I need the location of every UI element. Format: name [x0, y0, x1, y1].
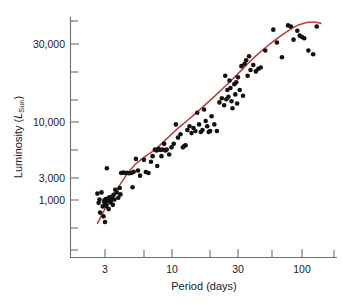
- data-point: [203, 119, 208, 124]
- data-point: [311, 52, 316, 57]
- data-point: [280, 55, 285, 60]
- data-point: [237, 88, 242, 93]
- data-point: [302, 36, 307, 41]
- data-point: [150, 154, 155, 159]
- data-point: [208, 129, 213, 134]
- data-point: [205, 124, 210, 129]
- data-point: [236, 75, 241, 80]
- axis-frame: [71, 17, 338, 258]
- data-point: [162, 142, 167, 147]
- data-point: [95, 191, 100, 196]
- y-axis-minor-ticks: [71, 21, 79, 250]
- data-points-layer: [95, 23, 319, 224]
- data-point: [228, 86, 233, 91]
- y-axis-title-subscript: Sun: [17, 100, 26, 113]
- data-point: [111, 203, 116, 208]
- x-axis-title: Period (days): [171, 280, 236, 292]
- y-axis-tick-labels: 30,000 10,000 3,000 1,000: [33, 38, 65, 206]
- data-point: [134, 157, 139, 162]
- x-tick-label-10: 10: [166, 263, 178, 275]
- y-axis-major-ticks: [71, 44, 80, 200]
- data-point: [247, 54, 252, 59]
- y-tick-label-1000: 1,000: [39, 194, 65, 206]
- x-tick-label-100: 100: [293, 263, 311, 275]
- x-axis-tick-labels: 3 10 30 100: [102, 263, 311, 275]
- data-point: [146, 171, 151, 176]
- data-point: [306, 48, 311, 53]
- data-point: [103, 220, 108, 225]
- data-point: [258, 65, 263, 70]
- data-point: [234, 80, 239, 85]
- data-point: [212, 122, 217, 127]
- data-point: [193, 129, 198, 134]
- data-point: [164, 147, 169, 152]
- data-point: [248, 68, 253, 73]
- data-point: [241, 93, 246, 98]
- data-point: [136, 168, 141, 173]
- data-point: [291, 37, 296, 42]
- data-point: [271, 27, 276, 32]
- data-point: [130, 185, 135, 190]
- y-tick-label-10000: 10,000: [33, 116, 65, 128]
- data-point: [263, 48, 268, 53]
- data-point: [217, 100, 222, 105]
- y-axis-title: Luminosity (LSun): [12, 96, 26, 178]
- data-point: [227, 78, 232, 83]
- data-point: [99, 190, 104, 195]
- data-point: [244, 58, 249, 63]
- data-point: [223, 73, 228, 78]
- data-point: [159, 154, 164, 159]
- data-point: [189, 131, 194, 136]
- data-point: [251, 63, 256, 68]
- data-point: [131, 169, 136, 174]
- data-point: [229, 99, 234, 104]
- x-tick-label-3: 3: [102, 263, 108, 275]
- data-point: [187, 124, 192, 129]
- fit-curve: [97, 22, 321, 223]
- data-point: [289, 24, 294, 29]
- data-point: [226, 94, 231, 99]
- data-point: [275, 40, 280, 45]
- data-point: [178, 132, 183, 137]
- data-point: [209, 114, 214, 119]
- data-point: [138, 173, 143, 178]
- data-point: [195, 110, 200, 115]
- y-tick-label-30000: 30,000: [33, 38, 65, 50]
- y-axis-title-close: ): [12, 96, 24, 100]
- data-point: [220, 96, 225, 101]
- data-point: [117, 186, 122, 191]
- data-point: [314, 24, 319, 29]
- fit-curve-layer: [97, 22, 321, 223]
- data-point: [97, 197, 102, 202]
- chart-canvas: 30,000 10,000 3,000 1,000 3 10 30 100 Pe: [0, 0, 343, 305]
- data-point: [233, 92, 238, 97]
- data-point: [215, 129, 220, 134]
- data-point: [230, 106, 235, 111]
- data-point: [235, 101, 240, 106]
- data-point: [106, 207, 111, 212]
- data-point: [174, 122, 179, 127]
- data-point: [197, 122, 202, 127]
- data-point: [98, 210, 103, 215]
- data-point: [105, 166, 110, 171]
- x-tick-label-30: 30: [232, 263, 244, 275]
- data-point: [149, 160, 154, 165]
- data-point: [183, 143, 188, 148]
- data-point: [155, 164, 160, 169]
- data-point: [118, 192, 123, 197]
- data-point: [101, 214, 106, 219]
- data-point: [222, 103, 227, 108]
- data-point: [200, 128, 205, 133]
- y-tick-label-3000: 3,000: [39, 172, 65, 184]
- data-point: [142, 158, 147, 163]
- data-point: [295, 29, 300, 34]
- data-point: [171, 142, 176, 147]
- svg-text:Luminosity (LSun): Luminosity (LSun): [12, 96, 26, 178]
- y-axis-title-main: Luminosity (: [12, 118, 24, 178]
- data-point: [202, 107, 207, 112]
- caption-strip: [0, 296, 343, 305]
- data-point: [167, 152, 172, 157]
- period-luminosity-figure: 30,000 10,000 3,000 1,000 3 10 30 100 Pe: [0, 0, 343, 305]
- data-point: [245, 73, 250, 78]
